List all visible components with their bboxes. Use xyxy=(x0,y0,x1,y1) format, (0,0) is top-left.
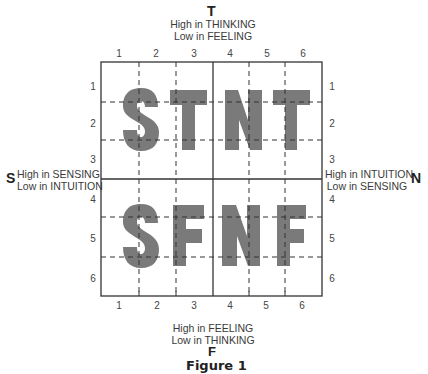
letter-t-top-2 xyxy=(273,90,310,150)
type-grid xyxy=(0,0,428,374)
letter-glyphs xyxy=(123,88,310,268)
pole-letter-bottom: F xyxy=(208,344,216,359)
bottom-tick-marks xyxy=(139,291,285,296)
letter-s-bottom xyxy=(123,204,159,268)
figure-caption: Figure 1 xyxy=(186,358,247,373)
letter-n-top xyxy=(225,90,262,150)
letter-s-top xyxy=(123,88,159,151)
pole-caption-bottom: High in FEELING Low in THINKING xyxy=(163,322,263,346)
pole-caption-bottom-line1: High in FEELING xyxy=(163,322,263,334)
